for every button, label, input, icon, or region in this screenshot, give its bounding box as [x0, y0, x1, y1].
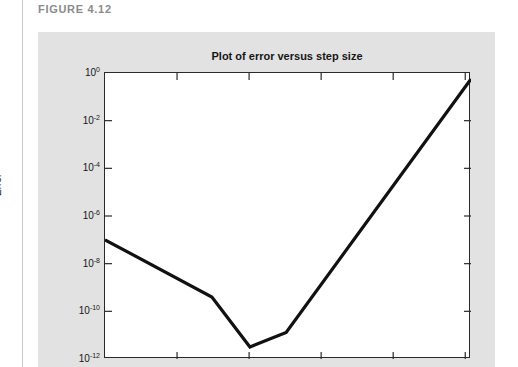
figure-page: FIGURE 4.12 Plot of error versus step si…: [0, 0, 518, 367]
error-curve-plot: [105, 73, 471, 359]
y-tick-label: 10-4: [56, 161, 100, 173]
y-tick-label-text: 10-6: [83, 209, 100, 221]
y-tick-label: 10-6: [56, 209, 100, 221]
y-tick-exponent: -4: [94, 161, 100, 168]
y-tick-label: 10-8: [56, 257, 100, 269]
y-tick-label-text: 100: [85, 66, 100, 78]
y-tick-exponent: -10: [90, 304, 100, 311]
plot-area: [104, 72, 470, 358]
y-tick-exponent: -8: [94, 257, 100, 264]
y-tick-label-text: 10-2: [83, 114, 100, 126]
axis-ticks: [105, 73, 471, 359]
y-tick-exponent: -2: [94, 114, 100, 121]
y-tick-label: 10-10: [56, 304, 100, 316]
y-tick-exponent: 0: [96, 66, 100, 73]
y-tick-label: 100: [56, 66, 100, 78]
y-tick-label-text: 10-8: [83, 257, 100, 269]
y-tick-label-text: 10-4: [83, 161, 100, 173]
error-curve-line: [105, 79, 471, 347]
y-tick-exponent: -12: [90, 352, 100, 359]
y-tick-label-text: 10-10: [79, 304, 100, 316]
y-axis-label: Error: [0, 174, 3, 196]
y-tick-label: 10-12: [56, 352, 100, 364]
y-tick-label: 10-2: [56, 114, 100, 126]
y-tick-exponent: -6: [94, 209, 100, 216]
y-tick-label-text: 10-12: [79, 352, 100, 364]
